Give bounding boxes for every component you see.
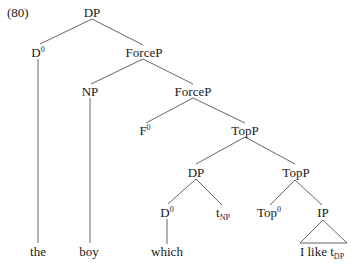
ip-triangle [300,220,347,243]
leaf-boy: boy [79,245,99,258]
node-np: NP [82,85,99,98]
branch-line [193,98,245,123]
leaf-which: which [151,245,183,258]
branch-line [196,179,222,205]
node-dp-2: DP [188,166,205,179]
leaf-i-like-trace: I like tDP [300,245,344,258]
node-root-dp: DP [84,6,101,19]
leaf-the: the [30,245,46,258]
branch-line [40,19,92,44]
branch-line [196,137,245,164]
node-top0: Top0 [257,206,281,219]
branch-line [295,180,322,205]
node-topp-1: TopP [231,124,258,137]
tree-branches [0,0,354,267]
syntax-tree: (80) DP D0 ForceP NP ForceP F0 TopP DP T… [0,0,354,267]
branch-line [143,59,193,84]
node-d0: D0 [31,46,44,59]
node-forcep-1: ForceP [126,46,163,59]
branch-line [146,98,193,123]
branch-line [168,179,196,204]
branch-line [245,137,295,164]
node-topp-2: TopP [282,166,309,179]
node-forcep-2: ForceP [175,85,212,98]
node-f0: F0 [139,124,150,137]
node-ip: IP [317,206,329,219]
branch-line [91,59,143,84]
node-d0-2: D0 [160,206,173,219]
node-trace-np: tNP [216,206,230,219]
example-number: (80) [7,6,29,19]
branch-line [92,19,143,45]
branch-line [270,180,295,205]
